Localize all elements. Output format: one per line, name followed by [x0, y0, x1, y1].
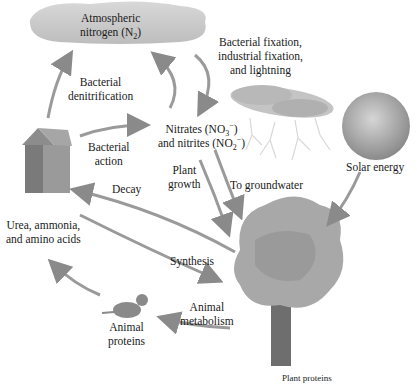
- nitrates-nitrites-label: Nitrates (NO3−) and nitrites (NO2−): [158, 122, 245, 150]
- decay-arrow: [75, 190, 235, 252]
- bacterial-action-label: Bacterial action: [88, 140, 130, 168]
- animal-proteins-label: Animal proteins: [108, 320, 145, 348]
- synthesis-arrow: [80, 215, 218, 280]
- tree-icon: [234, 197, 343, 367]
- plant-proteins-label: Plant proteins: [282, 371, 332, 385]
- denitrification-arrow: [48, 55, 70, 118]
- urea-ammonia-label: Urea, ammonia, and amino acids: [6, 218, 81, 246]
- solar-energy-arrow: [330, 172, 360, 222]
- animal-metabolism-label: Animal metabolism: [180, 300, 234, 328]
- synthesis-label: Synthesis: [170, 254, 214, 268]
- nitrate-to-atmosphere-arrow: [155, 55, 175, 108]
- bacterial-action-arrow: [80, 125, 145, 136]
- outhouse-icon: [22, 128, 72, 193]
- plant-growth-label: Plant growth: [168, 163, 201, 191]
- solar-energy-label: Solar energy: [346, 160, 404, 174]
- fixation-arrow: [195, 55, 209, 112]
- animal-icon: [102, 294, 148, 318]
- atmospheric-nitrogen-label: Atmospheric nitrogen (N2): [80, 11, 141, 39]
- decay-label: Decay: [112, 182, 141, 196]
- animal-to-urea-arrow: [52, 263, 100, 295]
- fixation-label: Bacterial fixation, industrial fixation,…: [218, 35, 303, 77]
- denitrification-label: Bacterial denitrification: [68, 75, 133, 103]
- to-groundwater-label: To groundwater: [230, 178, 303, 192]
- sun-icon: [342, 92, 410, 160]
